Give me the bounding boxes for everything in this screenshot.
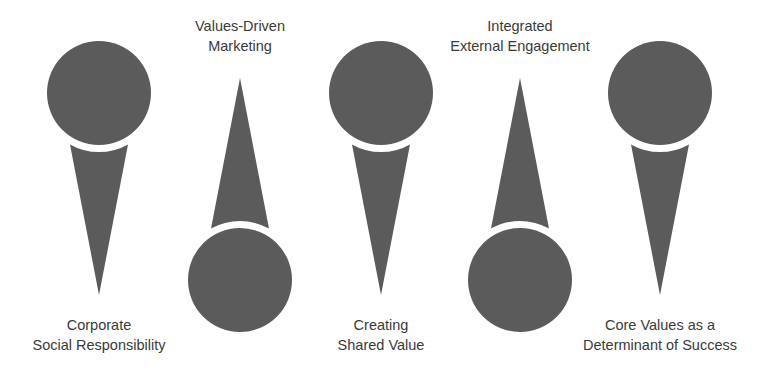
label-creating-shared-value: Creating Shared Value — [271, 315, 491, 355]
triangle-shape — [491, 78, 549, 229]
pin-shape — [608, 41, 712, 295]
triangle-shape — [352, 144, 410, 295]
label-line: Shared Value — [271, 335, 491, 355]
triangle-shape — [70, 144, 128, 295]
label-integrated-external-engagement: Integrated External Engagement — [410, 16, 630, 56]
label-line: External Engagement — [410, 36, 630, 56]
label-line: Creating — [271, 315, 491, 335]
label-line: Social Responsibility — [0, 335, 209, 355]
label-values-driven-marketing: Values-Driven Marketing — [130, 16, 350, 56]
circle-shape — [47, 41, 151, 145]
circle-shape — [608, 41, 712, 145]
label-core-values-determinant-of-success: Core Values as a Determinant of Success — [550, 315, 770, 355]
pin-shape — [329, 41, 433, 295]
circle-shape — [329, 41, 433, 145]
pin-shape — [468, 78, 572, 332]
label-corporate-social-responsibility: Corporate Social Responsibility — [0, 315, 209, 355]
pin-shape — [47, 41, 151, 295]
label-line: Values-Driven — [130, 16, 350, 36]
label-line: Corporate — [0, 315, 209, 335]
triangle-shape — [631, 144, 689, 295]
label-line: Marketing — [130, 36, 350, 56]
label-line: Determinant of Success — [550, 335, 770, 355]
pin-shape — [188, 78, 292, 332]
label-line: Core Values as a — [550, 315, 770, 335]
triangle-shape — [211, 78, 269, 229]
label-line: Integrated — [410, 16, 630, 36]
